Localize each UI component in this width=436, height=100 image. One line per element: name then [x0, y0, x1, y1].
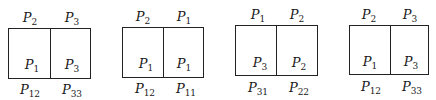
inner-label-right: P3	[404, 55, 418, 71]
diagram-panel-1: P2 P3 P1 P3 P12 P33	[0, 0, 110, 100]
inner-label-left: P1	[139, 57, 153, 73]
top-label-left: P2	[136, 10, 150, 26]
diagram-panel-3: P1 P2 P3 P2 P31 P22	[220, 0, 330, 100]
bottom-label-right: P11	[176, 82, 196, 98]
top-label-right: P3	[403, 8, 417, 24]
inner-label-right: P2	[292, 56, 306, 72]
top-label-left: P2	[362, 8, 376, 24]
bottom-label-right: P33	[402, 80, 422, 96]
inner-label-right: P1	[177, 57, 191, 73]
inner-label-right: P3	[65, 58, 79, 74]
bottom-label-left: P12	[20, 83, 40, 99]
inner-label-left: P1	[25, 58, 39, 74]
bottom-label-left: P12	[361, 80, 381, 96]
bottom-label-left: P12	[135, 82, 155, 98]
bottom-label-right: P33	[62, 83, 82, 99]
cell-divider	[163, 28, 164, 77]
top-label-right: P1	[177, 10, 191, 26]
diagram-panel-4: P2 P3 P1 P3 P12 P33	[326, 0, 436, 100]
inner-label-left: P1	[363, 55, 377, 71]
top-label-left: P2	[23, 11, 37, 27]
top-label-right: P3	[65, 11, 79, 27]
diagram-panel-2: P2 P1 P1 P1 P12 P11	[110, 0, 220, 100]
two-cell-box	[122, 27, 204, 78]
bottom-label-left: P31	[248, 81, 268, 97]
cell-divider	[276, 26, 277, 75]
cell-divider	[390, 26, 391, 74]
inner-label-left: P3	[253, 56, 267, 72]
bottom-label-right: P22	[289, 81, 309, 97]
cell-divider	[50, 29, 51, 78]
top-label-right: P2	[290, 8, 304, 24]
top-label-left: P1	[251, 8, 265, 24]
